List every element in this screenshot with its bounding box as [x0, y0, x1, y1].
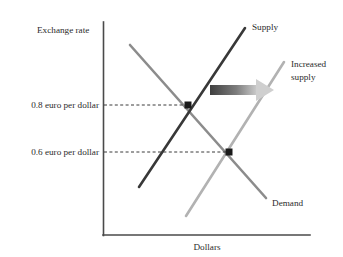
supply-curve [139, 28, 245, 187]
initial-equilibrium-dot [185, 102, 192, 109]
y-tick-label-high: 0.8 euro per dollar [31, 100, 99, 110]
supply-demand-figure: Supply Increased supply Demand 0.8 euro … [0, 0, 343, 257]
x-axis-title: Dollars [193, 242, 220, 252]
increased-supply-label-line1: Increased [291, 59, 327, 69]
new-equilibrium-dot [226, 149, 233, 156]
exchange-rate-chart: Supply Increased supply Demand 0.8 euro … [0, 0, 343, 257]
supply-curve-label: Supply [252, 22, 278, 32]
demand-curve-label: Demand [272, 198, 304, 208]
supply-shift-arrow [210, 79, 274, 101]
y-axis-title: Exchange rate [37, 25, 89, 35]
increased-supply-label-line2: supply [291, 72, 316, 82]
y-tick-label-low: 0.6 euro per dollar [31, 147, 99, 157]
